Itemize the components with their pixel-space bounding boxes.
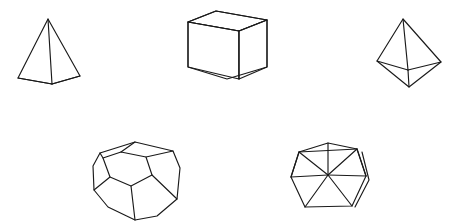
solid-tetrahedron bbox=[18, 19, 80, 84]
solids-canvas bbox=[0, 0, 453, 224]
cube-left-face bbox=[188, 22, 239, 79]
octahedron-outline bbox=[377, 19, 441, 87]
solid-hexahedron-cube bbox=[188, 11, 267, 79]
solid-dodecahedron bbox=[93, 142, 180, 220]
solid-icosahedron bbox=[291, 143, 369, 207]
solid-octahedron bbox=[377, 19, 441, 87]
platonic-solids-figure bbox=[0, 0, 453, 224]
